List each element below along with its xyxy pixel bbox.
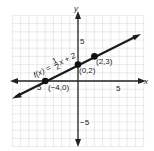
y-tick-label-5: 5: [80, 37, 85, 46]
point-label-neg4-0: (−4,0): [48, 83, 69, 92]
x-axis-label: x: [143, 77, 149, 86]
x-tick-label-5: 5: [116, 84, 121, 93]
x-tick-label-neg5: 5: [37, 83, 42, 92]
line-right-arrow-icon: [132, 34, 141, 40]
y-axis-down-arrow-icon: [75, 139, 81, 147]
point-label-0-2: (0,2): [79, 66, 96, 75]
coordinate-plane: x y 5 5 5 −5 (−4,0) (0,2) (2,3) f(x) = 1…: [0, 0, 154, 151]
x-axis-left-arrow-icon: [10, 78, 18, 84]
point-label-2-3: (2,3): [96, 57, 113, 66]
y-tick-label-neg5: −5: [80, 118, 90, 127]
equation-prefix: f(x) =: [32, 63, 53, 79]
